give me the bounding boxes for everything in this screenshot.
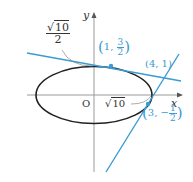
y-axis-arrow-icon — [92, 12, 97, 18]
tangent-point-1 — [109, 64, 113, 68]
y-axis-label: y — [83, 10, 89, 21]
diagram-canvas — [0, 0, 193, 182]
x-intercept-label: √10 — [105, 99, 125, 109]
y-intercept-label: √10 2 — [46, 22, 70, 45]
intersection-label: (4, 1) — [145, 59, 172, 69]
tangent-point-2-label: (3, −12) — [142, 104, 183, 123]
tangent-point-1-label: (1, 32) — [98, 38, 130, 57]
x-axis-arrow-icon — [177, 93, 183, 98]
origin-label: O — [82, 99, 90, 109]
